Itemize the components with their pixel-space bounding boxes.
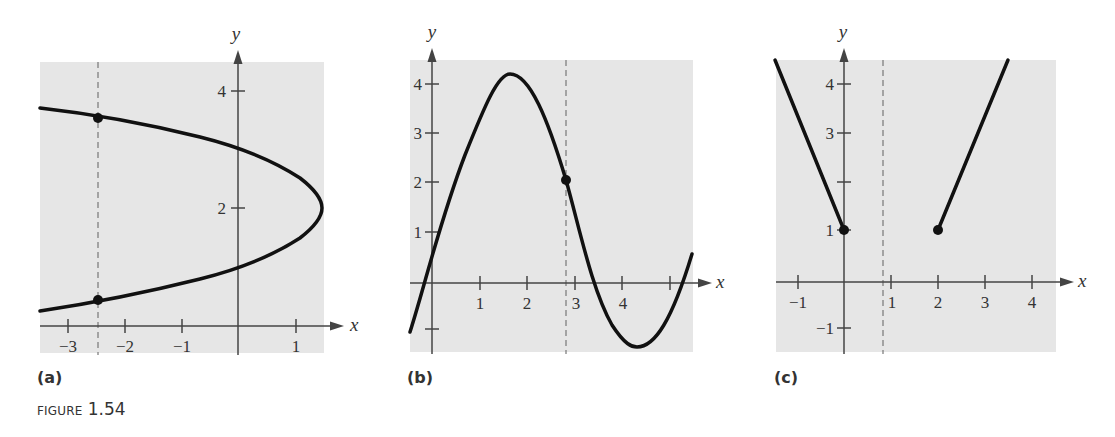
y-axis-arrow-c (840, 48, 849, 62)
y-axis-arrow-a (234, 50, 243, 64)
x-tick-label: −2 (116, 337, 134, 356)
endpoint-right (933, 225, 943, 235)
panel-b: 1 2 3 4 4 3 2 1 y x (410, 21, 725, 354)
panel-label-a: (a) (37, 368, 62, 387)
x-axis-arrow-c (1060, 278, 1074, 287)
x-tick-label: −1 (173, 337, 191, 356)
panel-label-b: (b) (407, 368, 433, 387)
x-axis-label-b: x (715, 271, 725, 292)
x-axis-arrow-a (330, 322, 344, 331)
figure-caption: FIGURE 1.54 (37, 399, 126, 419)
y-tick-label: −1 (816, 319, 834, 338)
figure-canvas: −3 −2 −1 1 4 2 y x (0, 0, 1115, 437)
y-axis-label-a: y (230, 23, 241, 44)
endpoint-left (839, 225, 849, 235)
x-tick-label: 4 (619, 294, 628, 313)
y-tick-label: 1 (414, 223, 423, 242)
panel-c: −1 1 2 3 4 4 3 1 −1 y x (775, 21, 1087, 354)
intersection-point-lower (93, 295, 103, 305)
plot-area-c (776, 60, 1056, 352)
figure-caption-number: 1.54 (88, 399, 126, 419)
y-tick-label: 4 (414, 75, 423, 94)
x-tick-label: 1 (476, 294, 485, 313)
x-tick-label: −1 (789, 293, 807, 312)
x-tick-label: 2 (523, 294, 532, 313)
x-axis-label-c: x (1077, 270, 1087, 291)
intersection-point (561, 175, 571, 185)
y-axis-arrow-b (428, 48, 437, 62)
y-tick-label: 4 (218, 82, 227, 101)
intersection-point-upper (93, 113, 103, 123)
y-tick-label: 4 (826, 75, 835, 94)
x-tick-label: 1 (888, 293, 897, 312)
y-axis-label-c: y (837, 21, 848, 42)
x-tick-label: −3 (59, 337, 77, 356)
y-tick-label: 2 (218, 199, 227, 218)
plot-area-a (40, 62, 324, 353)
y-tick-label: 3 (826, 124, 835, 143)
plot-area-b (410, 60, 693, 352)
x-tick-label: 1 (292, 337, 301, 356)
panel-a: −3 −2 −1 1 4 2 y x (40, 23, 359, 356)
x-tick-label: 3 (572, 294, 581, 313)
x-axis-label-a: x (349, 314, 359, 335)
x-tick-label: 3 (981, 293, 990, 312)
panel-label-c: (c) (774, 368, 798, 387)
y-tick-label: 1 (826, 221, 835, 240)
x-tick-label: 4 (1028, 293, 1037, 312)
y-axis-label-b: y (426, 21, 437, 42)
x-tick-label: 2 (934, 293, 943, 312)
x-axis-arrow-b (698, 279, 712, 288)
y-tick-label: 2 (414, 173, 423, 192)
figure-caption-word: FIGURE (37, 404, 83, 418)
y-tick-label: 3 (414, 124, 423, 143)
